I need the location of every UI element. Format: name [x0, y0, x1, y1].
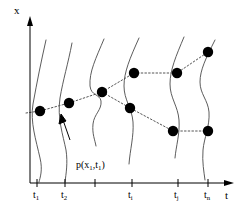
diagram-canvas: x t p(x1,t1) t1 t2 ti tj tn — [0, 0, 241, 213]
density-function-label: p(x1,t1) — [76, 160, 105, 170]
annotation-arrow-shaft — [63, 120, 70, 140]
sample-dot-ti-lower — [125, 103, 135, 113]
density-label-head: p(x — [76, 159, 89, 170]
tick-label-t1-sub: 1 — [36, 194, 39, 201]
sample-dot-tj-upper — [172, 68, 182, 78]
tick-label-t1: t1 — [33, 190, 39, 200]
trajectory-paths — [26, 52, 208, 131]
tick-label-tj: tj — [174, 190, 179, 200]
annotation-arrow-head — [59, 114, 66, 124]
density-curve-t2 — [59, 43, 72, 182]
sample-dot-t2 — [64, 98, 74, 108]
sample-dot-tn-upper — [203, 47, 213, 57]
sample-dot-t1 — [35, 106, 45, 116]
tick-label-t2-sub: 2 — [64, 194, 67, 201]
tick-label-tn-sub: n — [207, 194, 210, 201]
trajectory-branch-upper — [102, 52, 208, 92]
density-label-sub1: 1 — [89, 164, 92, 171]
density-curves — [32, 37, 215, 182]
tick-label-tn: tn — [204, 190, 210, 200]
x-axis-arrowhead — [27, 16, 33, 26]
t-axis-arrowhead — [224, 180, 234, 186]
density-curve-ti — [124, 38, 139, 164]
sample-dot-tn-lower — [203, 126, 213, 136]
density-curve-tn — [200, 40, 215, 180]
tick-label-t2: t2 — [61, 190, 67, 200]
tick-label-tj-sub: j — [177, 194, 179, 201]
tick-label-ti-sub: i — [131, 194, 133, 201]
sample-dot-tj-lower — [168, 126, 178, 136]
density-label-close: ) — [101, 159, 104, 170]
sample-dot-ti-upper — [129, 68, 139, 78]
x-axis-label: x — [14, 5, 20, 16]
diagram-svg — [0, 0, 241, 213]
density-curve-tj — [170, 37, 184, 158]
tick-label-ti: ti — [128, 190, 133, 200]
trajectory-branch-lower — [102, 92, 208, 131]
t-axis-label: t — [225, 190, 228, 201]
density-label-sub2: 1 — [98, 164, 101, 171]
sample-dot-t3 — [97, 87, 107, 97]
